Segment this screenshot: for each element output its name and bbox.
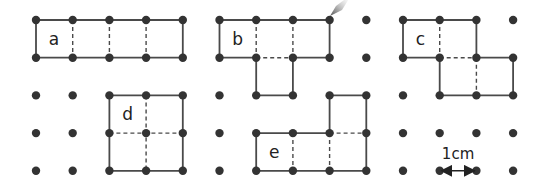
grid-dot: [32, 91, 40, 99]
shape-label: c: [416, 29, 425, 49]
grid-dot: [69, 54, 77, 62]
grid-dot: [325, 91, 333, 99]
pencil-icon: [330, 0, 352, 16]
grid-dot: [69, 16, 77, 24]
grid-dot: [362, 167, 370, 175]
grid-dot: [142, 167, 150, 175]
shape-label: a: [49, 29, 59, 49]
grid-dot: [215, 91, 223, 99]
grid-dot: [215, 16, 223, 24]
grid-dot: [362, 54, 370, 62]
grid-dot: [142, 16, 150, 24]
grid-dot: [509, 129, 517, 137]
shape-label: e: [269, 142, 279, 162]
scale-label: 1cm: [442, 145, 474, 163]
grid-dot: [32, 167, 40, 175]
grid-dot: [105, 129, 113, 137]
grid-dot: [399, 16, 407, 24]
grid-dot: [325, 54, 333, 62]
grid-dot: [105, 54, 113, 62]
shape-label: b: [232, 29, 243, 49]
grid-dot: [142, 91, 150, 99]
grid-dot: [325, 167, 333, 175]
grid-dot: [215, 167, 223, 175]
grid-dot: [179, 16, 187, 24]
shape-label: d: [122, 104, 133, 124]
grid-dot: [399, 91, 407, 99]
grid-dot: [32, 129, 40, 137]
grid-dot: [289, 91, 297, 99]
grid-dot: [472, 91, 480, 99]
grid-dot: [252, 129, 260, 137]
grid-dot: [509, 91, 517, 99]
grid-dot: [142, 54, 150, 62]
grid-dot: [362, 16, 370, 24]
scale-indicator: 1cm: [442, 145, 475, 171]
grid-dot: [215, 129, 223, 137]
grid-dot: [436, 91, 444, 99]
grid-dot: [362, 91, 370, 99]
grid-dot: [105, 16, 113, 24]
grid-dot: [325, 129, 333, 137]
grid-dot: [179, 167, 187, 175]
grid-dot: [289, 16, 297, 24]
grid-dot: [69, 167, 77, 175]
grid-dot: [436, 54, 444, 62]
grid-dot: [69, 129, 77, 137]
grid-dot: [105, 167, 113, 175]
grid-dot: [399, 167, 407, 175]
grid-dot: [179, 54, 187, 62]
grid-dot: [509, 54, 517, 62]
grid-dot: [32, 54, 40, 62]
grid-dot: [509, 16, 517, 24]
grid-dot: [509, 167, 517, 175]
grid-dot: [289, 129, 297, 137]
grid-dot: [325, 16, 333, 24]
grid-dot: [142, 129, 150, 137]
grid-dot: [105, 91, 113, 99]
grid-dot: [472, 54, 480, 62]
grid-dot: [252, 16, 260, 24]
grid-dot: [252, 91, 260, 99]
grid-dot: [472, 129, 480, 137]
grid-dot: [252, 167, 260, 175]
grid-dot: [179, 129, 187, 137]
grid-dot: [215, 54, 223, 62]
grid-dot: [436, 16, 444, 24]
grid-dot: [399, 54, 407, 62]
grid-dot: [399, 129, 407, 137]
grid-dot: [252, 54, 260, 62]
pencil-icon: [330, 0, 352, 16]
grid-dot: [179, 91, 187, 99]
grid-dot: [32, 16, 40, 24]
grid-dot: [69, 91, 77, 99]
grid-dot: [289, 54, 297, 62]
grid-dot: [289, 167, 297, 175]
grid-dot: [362, 129, 370, 137]
grid-dot: [436, 129, 444, 137]
dot-grid-diagram: abcde 1cm: [0, 0, 540, 187]
grid-dot: [472, 16, 480, 24]
